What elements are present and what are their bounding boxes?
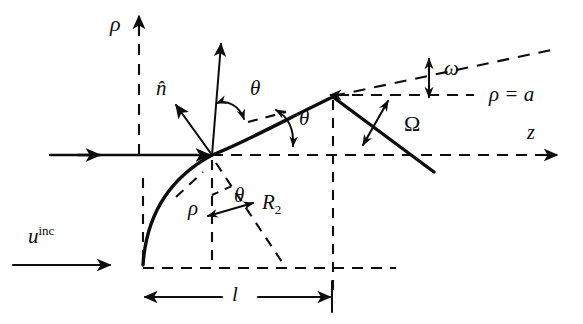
radius-R2-base: R <box>262 190 275 214</box>
omega-label: ω <box>444 58 459 79</box>
theta-mid-label: θ <box>299 108 309 129</box>
radius-R2-label: R2 <box>262 192 281 216</box>
scatterer-curve <box>143 155 212 265</box>
scatterer-upper-segment <box>212 97 333 155</box>
tangent-stub-lower-left <box>176 172 203 197</box>
rho-radial-label: ρ <box>188 198 198 219</box>
figure-canvas: ρ z n̂ θ θ θ ρ R2 ω Ω ρ = a l uinc <box>0 0 583 324</box>
theta-top-arc <box>217 102 244 119</box>
normal-vector-arrow <box>176 105 212 155</box>
radius-R2-subscript: 2 <box>275 202 282 217</box>
big-omega-label: Ω <box>404 113 420 135</box>
theta-bottom-dashed-ray <box>212 186 232 195</box>
rho-equals-a-label: ρ = a <box>489 84 534 105</box>
theta-mid-arc <box>276 110 293 146</box>
theta-top-label: θ <box>250 78 260 99</box>
u-inc-label: uinc <box>28 224 54 247</box>
rho-axis-label: ρ <box>110 13 121 35</box>
z-axis-label: z <box>527 122 535 142</box>
length-l-label: l <box>232 284 238 305</box>
theta-bottom-label: θ <box>234 185 244 206</box>
u-inc-base: u <box>28 224 39 248</box>
vertical-reference-arrow <box>212 44 221 155</box>
diagram-vector-layer <box>0 0 583 324</box>
normal-vector-label: n̂ <box>156 78 167 99</box>
u-inc-superscript: inc <box>39 223 55 238</box>
